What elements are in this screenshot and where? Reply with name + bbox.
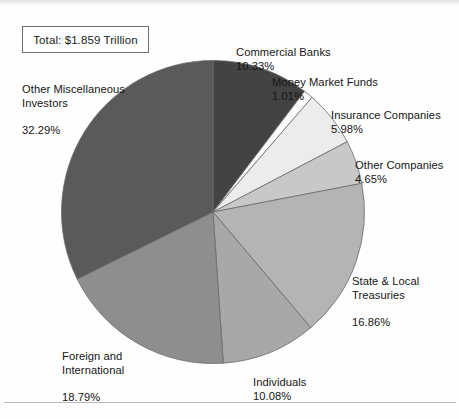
label-foreign-and-international-name-1: Foreign and — [62, 350, 122, 362]
label-other-miscellaneous-investors-name-2: Investors — [22, 97, 125, 110]
label-state-local-treasuries-pct: 16.86% — [352, 316, 419, 329]
label-other-companies-pct: 4.65% — [355, 173, 443, 186]
scan-edge-band — [0, 0, 459, 6]
footer-divider — [4, 402, 456, 403]
label-individuals: Individuals 10.08% — [253, 363, 306, 417]
total-annotation-text: Total: $1.859 Trillion — [33, 34, 137, 46]
label-state-local-treasuries-name-1: State & Local — [352, 275, 419, 287]
label-other-miscellaneous-investors-pct: 32.29% — [22, 124, 125, 137]
label-insurance-companies-pct: 5.98% — [331, 123, 441, 136]
label-other-miscellaneous-investors-name-1: Other Miscellaneous — [22, 83, 125, 95]
label-other-companies: Other Companies 4.65% — [355, 146, 443, 200]
pie-chart-figure: Total: $1.859 Trillion Commercial Banks … — [0, 0, 459, 419]
label-foreign-and-international: Foreign and International 18.79% — [62, 337, 124, 417]
label-foreign-and-international-name-2: International — [62, 364, 124, 377]
label-money-market-funds-name: Money Market Funds — [272, 76, 378, 88]
label-other-miscellaneous-investors: Other Miscellaneous Investors 32.29% — [22, 70, 125, 150]
label-state-local-treasuries-name-2: Treasuries — [352, 289, 419, 302]
label-insurance-companies: Insurance Companies 5.98% — [331, 96, 441, 150]
label-insurance-companies-name: Insurance Companies — [331, 109, 441, 121]
label-state-local-treasuries: State & Local Treasuries 16.86% — [352, 262, 419, 342]
total-annotation-box: Total: $1.859 Trillion — [22, 26, 149, 53]
label-other-companies-name: Other Companies — [355, 159, 443, 171]
label-individuals-name: Individuals — [253, 376, 306, 388]
label-commercial-banks-name: Commercial Banks — [236, 46, 331, 58]
